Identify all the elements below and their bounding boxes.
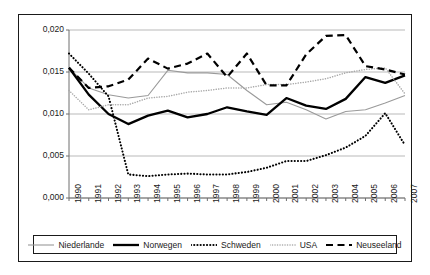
legend-label: Niederlande: [58, 240, 104, 250]
legend-item-neuseeland: Neuseeland: [326, 240, 401, 250]
x-tick-label: 1991: [93, 184, 103, 203]
legend-label: Norwegen: [143, 240, 182, 250]
legend-swatch-schweden: [191, 240, 217, 250]
x-tick-label: 2006: [389, 184, 399, 203]
y-tick-label: 0,015: [30, 66, 64, 76]
legend-swatch-norwegen: [113, 240, 139, 250]
x-tick-label: 2005: [369, 184, 379, 203]
series-line-norwegen: [69, 68, 405, 124]
x-tick-label: 2001: [290, 184, 300, 203]
chart-canvas: [19, 15, 413, 263]
x-tick-label: 1998: [231, 184, 241, 203]
x-tick-label: 2004: [350, 184, 360, 203]
legend-swatch-neuseeland: [326, 240, 352, 250]
y-tick-label: 0,000: [30, 192, 64, 202]
legend-label: USA: [300, 240, 317, 250]
x-tick-label: 1992: [113, 184, 123, 203]
x-tick-label: 1997: [211, 184, 221, 203]
legend-swatch-usa: [270, 240, 296, 250]
y-tick-label: 0,020: [30, 24, 64, 34]
series-line-neuseeland: [69, 35, 405, 88]
legend-label: Schweden: [221, 240, 261, 250]
x-tick-label: 2003: [330, 184, 340, 203]
legend-item-schweden: Schweden: [191, 240, 261, 250]
x-tick-label: 1990: [73, 184, 83, 203]
legend-label: Neuseeland: [356, 240, 401, 250]
x-tick-label: 1999: [251, 184, 261, 203]
x-tick-label: 1993: [132, 184, 142, 203]
x-tick-label: 2000: [271, 184, 281, 203]
y-tick-label: 0,010: [30, 108, 64, 118]
plot-area: 0,0000,0050,0100,0150,020 19901991199219…: [19, 15, 411, 261]
legend-item-usa: USA: [270, 240, 317, 250]
legend-item-niederlande: Niederlande: [28, 240, 104, 250]
x-tick-label: 2002: [310, 184, 320, 203]
series-line-niederlande: [69, 68, 405, 119]
gridlines: [69, 30, 405, 198]
legend-item-norwegen: Norwegen: [113, 240, 182, 250]
x-tick-label: 2007: [409, 184, 419, 203]
x-tick-label: 1996: [192, 184, 202, 203]
y-tick-label: 0,005: [30, 150, 64, 160]
legend-swatch-niederlande: [28, 240, 54, 250]
chart-figure: 0,0000,0050,0100,0150,020 19901991199219…: [18, 14, 412, 262]
x-tick-label: 1995: [172, 184, 182, 203]
chart-legend: NiederlandeNorwegenSchwedenUSANeuseeland: [33, 235, 397, 254]
x-tick-label: 1994: [152, 184, 162, 203]
